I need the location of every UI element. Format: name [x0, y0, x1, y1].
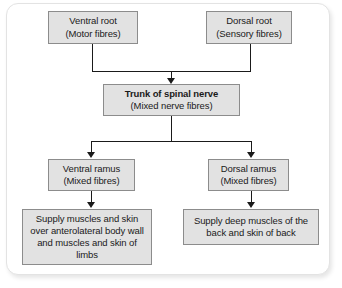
node-ventral-supply-text: Supply muscles and skin over anterolater… — [28, 213, 146, 262]
connector-ventral-root-stem — [92, 44, 93, 71]
node-dorsal-root: Dorsal root (Sensory fibres) — [206, 11, 292, 44]
node-dorsal-ramus: Dorsal ramus (Mixed fibres) — [208, 159, 289, 191]
node-ventral-root-line1: Ventral root — [69, 15, 116, 27]
node-dorsal-supply: Supply deep muscles of the back and skin… — [183, 209, 319, 245]
connector-split-to-dorsal-ramus — [251, 141, 252, 153]
arrowhead-into-dorsal-ramus — [247, 152, 255, 158]
connector-dorsal-root-stem — [250, 44, 251, 71]
connector-trunk-stem — [171, 116, 172, 141]
node-trunk-of-spinal-nerve: Trunk of spinal nerve (Mixed nerve fibre… — [103, 84, 240, 116]
node-ventral-ramus: Ventral ramus (Mixed fibres) — [48, 159, 135, 191]
node-dorsal-root-line2: (Sensory fibres) — [216, 28, 281, 40]
node-dorsal-ramus-line2: (Mixed fibres) — [220, 175, 276, 187]
connector-split-bar — [91, 141, 251, 142]
arrowhead-into-ventral-ramus — [87, 152, 95, 158]
node-ventral-root: Ventral root (Motor fibres) — [48, 11, 138, 44]
arrowhead-into-ventral-supply — [87, 202, 95, 208]
node-dorsal-root-line1: Dorsal root — [226, 15, 271, 27]
node-trunk-line2: (Mixed nerve fibres) — [131, 100, 213, 112]
flowchart-canvas: Ventral root (Motor fibres) Dorsal root … — [0, 0, 342, 288]
connector-split-to-ventral-ramus — [91, 141, 92, 153]
arrowhead-into-dorsal-supply — [247, 202, 255, 208]
node-ventral-root-line2: (Motor fibres) — [65, 28, 120, 40]
node-ventral-ramus-line1: Ventral ramus — [63, 163, 120, 175]
node-ventral-supply: Supply muscles and skin over anterolater… — [22, 209, 152, 265]
node-trunk-line1: Trunk of spinal nerve — [125, 88, 218, 100]
node-dorsal-supply-text: Supply deep muscles of the back and skin… — [188, 215, 314, 239]
node-ventral-ramus-line2: (Mixed fibres) — [63, 175, 119, 187]
node-dorsal-ramus-line1: Dorsal ramus — [221, 163, 276, 175]
